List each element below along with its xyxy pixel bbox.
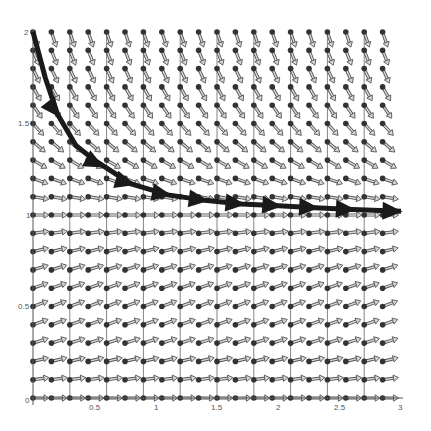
field-arrow xyxy=(104,66,114,83)
field-dot xyxy=(104,176,110,182)
field-dot xyxy=(343,377,349,383)
field-arrow xyxy=(251,29,260,47)
field-arrow xyxy=(49,281,67,291)
field-dot xyxy=(141,121,147,127)
field-arrow xyxy=(343,375,362,382)
field-arrow xyxy=(343,318,361,328)
field-dot xyxy=(361,359,367,365)
field-dot xyxy=(325,322,331,328)
field-dot xyxy=(325,66,331,72)
field-arrow xyxy=(196,337,214,346)
field-dot xyxy=(214,176,220,182)
field-dot xyxy=(306,66,312,72)
field-arrow xyxy=(325,66,335,83)
field-dot xyxy=(196,66,202,72)
field-arrow xyxy=(361,121,374,136)
field-arrow xyxy=(325,84,336,101)
field-dot xyxy=(214,102,220,108)
field-arrow xyxy=(85,318,103,328)
field-arrow xyxy=(122,157,139,168)
field-dot xyxy=(196,48,202,54)
field-dot xyxy=(67,340,73,346)
field-arrow xyxy=(30,102,42,118)
field-dot xyxy=(141,285,147,291)
field-arrow xyxy=(269,84,280,101)
field-dot xyxy=(85,48,91,54)
field-dot xyxy=(104,285,110,291)
field-dot xyxy=(122,102,128,108)
field-dot xyxy=(122,29,128,35)
field-arrow xyxy=(343,176,361,186)
field-arrow xyxy=(49,212,68,218)
field-dot xyxy=(49,359,55,365)
field-arrow xyxy=(269,246,287,254)
field-dot xyxy=(361,212,367,218)
field-arrow xyxy=(269,157,286,168)
field-dot xyxy=(122,377,128,383)
field-dot xyxy=(288,139,294,145)
field-dot xyxy=(288,29,294,35)
field-dot xyxy=(67,194,73,200)
field-dot xyxy=(104,212,110,218)
field-dot xyxy=(269,359,275,365)
y-tick-1: 1 xyxy=(26,211,31,220)
field-dot xyxy=(380,194,386,200)
field-dot xyxy=(269,84,275,90)
field-dot xyxy=(325,102,331,108)
field-dot xyxy=(177,176,183,182)
field-dot xyxy=(233,102,239,108)
field-dot xyxy=(85,102,91,108)
field-arrow xyxy=(288,66,298,83)
field-dot xyxy=(85,285,91,291)
field-dot xyxy=(343,84,349,90)
field-dot xyxy=(251,267,257,273)
field-dot xyxy=(343,176,349,182)
field-arrow xyxy=(233,229,252,236)
field-arrow xyxy=(343,66,353,83)
field-arrow xyxy=(380,194,399,202)
field-dot xyxy=(343,121,349,127)
field-dot xyxy=(49,121,55,127)
field-arrow xyxy=(361,139,376,152)
field-dot xyxy=(269,285,275,291)
field-arrow xyxy=(233,66,243,83)
field-arrow xyxy=(30,84,41,101)
field-arrow xyxy=(104,212,123,218)
field-arrow xyxy=(269,264,287,273)
field-arrow xyxy=(196,121,209,136)
field-dot xyxy=(251,66,257,72)
field-arrow xyxy=(67,66,77,83)
field-arrow xyxy=(233,29,242,47)
field-dot xyxy=(49,267,55,273)
field-dot xyxy=(233,48,239,54)
field-arrow xyxy=(233,318,251,328)
field-dot xyxy=(251,176,257,182)
field-arrow xyxy=(288,29,297,47)
field-arrow xyxy=(159,29,168,47)
field-dot xyxy=(269,66,275,72)
field-dot xyxy=(141,139,147,145)
field-arrow xyxy=(251,102,263,118)
field-dot xyxy=(214,377,220,383)
field-dot xyxy=(233,231,239,237)
field-arrow xyxy=(306,194,325,202)
field-dot xyxy=(104,66,110,72)
field-dot xyxy=(141,377,147,383)
field-arrow xyxy=(122,102,134,118)
field-arrow xyxy=(233,246,251,254)
field-dot xyxy=(306,212,312,218)
field-arrow xyxy=(104,48,114,66)
field-dot xyxy=(177,231,183,237)
field-dot xyxy=(67,102,73,108)
field-arrow xyxy=(269,356,287,364)
field-dot xyxy=(269,29,275,35)
field-arrow xyxy=(214,48,224,66)
field-dot xyxy=(159,66,165,72)
field-dot xyxy=(85,359,91,365)
field-dot xyxy=(306,121,312,127)
field-dot xyxy=(269,194,275,200)
field-dot xyxy=(251,249,257,255)
field-arrow xyxy=(269,300,287,310)
field-dot xyxy=(325,249,331,255)
field-dot xyxy=(104,102,110,108)
